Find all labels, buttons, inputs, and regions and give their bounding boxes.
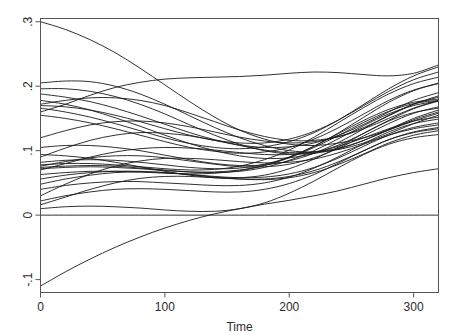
x-tick-label: 0 xyxy=(37,300,44,314)
curve-line xyxy=(41,22,439,146)
x-tick-label: 300 xyxy=(404,300,424,314)
y-tick-label: -.1 xyxy=(22,272,36,286)
curve-line xyxy=(41,65,439,112)
y-tick-label: .1 xyxy=(22,145,36,155)
y-axis: -.10.1.2.3 xyxy=(22,16,41,286)
curve-line xyxy=(41,100,439,158)
x-axis: 0100200300 xyxy=(37,293,424,314)
chart-figure: 0100200300 -.10.1.2.3 Time xyxy=(0,0,453,335)
line-chart-svg: 0100200300 -.10.1.2.3 Time xyxy=(0,0,453,335)
x-tick-label: 200 xyxy=(279,300,299,314)
y-tick-label: 0 xyxy=(22,211,36,218)
y-tick-label: .3 xyxy=(22,16,36,26)
y-tick-label: .2 xyxy=(22,81,36,91)
x-axis-title: Time xyxy=(226,320,253,334)
curves-group xyxy=(41,22,439,286)
x-tick-label: 100 xyxy=(155,300,175,314)
